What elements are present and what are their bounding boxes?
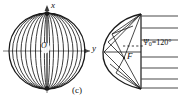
cone-facet (108, 42, 124, 58)
focus-label: F (127, 52, 133, 61)
cone-outline (103, 14, 141, 89)
cone-side-view (103, 14, 178, 89)
field-lines (141, 16, 178, 88)
y-axis-label: y (92, 44, 96, 53)
origin-label: O (41, 42, 47, 50)
figure-drawing (0, 0, 181, 102)
cone-facet (112, 14, 141, 34)
x-axis-arrowhead (45, 5, 50, 11)
figure-container: x y O F Ψ0=120° (c) (0, 0, 181, 102)
figure-caption: (c) (72, 86, 82, 95)
cone-facets (104, 14, 141, 89)
x-axis-label: x (51, 1, 55, 10)
south-pole-node (45, 86, 50, 91)
cone-facet (104, 52, 141, 89)
north-pole-node (45, 11, 50, 16)
focus-point (123, 57, 125, 59)
beam-angle-label: Ψ0=120° (143, 39, 171, 47)
beam-angle-value: =120° (152, 38, 172, 47)
cone-facet (108, 14, 141, 42)
